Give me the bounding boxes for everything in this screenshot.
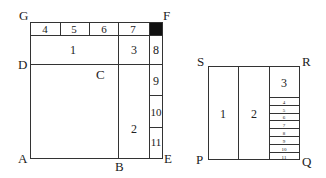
region-5: 5: [71, 23, 77, 35]
left-figure: 4 5 6 7 1 3 8 9 10 11 2 G F D C A B E: [18, 8, 172, 174]
right-figure: 1 2 3 4 5 6 7 8 9 10 11 S R P Q: [196, 54, 312, 169]
vertex-Q: Q: [302, 154, 312, 169]
vertex-E: E: [164, 151, 172, 166]
region-4: 4: [42, 23, 48, 35]
filled-cell: [150, 23, 162, 35]
region-3: 3: [131, 43, 137, 57]
region-10: 10: [151, 106, 163, 118]
region-8: 8: [283, 131, 286, 136]
region-11: 11: [151, 136, 162, 148]
region-1: 1: [70, 43, 76, 57]
region-6: 6: [283, 115, 286, 120]
vertex-A: A: [18, 151, 28, 166]
vertex-G: G: [19, 8, 28, 23]
region-6: 6: [101, 23, 107, 35]
vertex-B: B: [115, 159, 124, 174]
vertex-C: C: [96, 67, 105, 82]
region-9: 9: [283, 139, 286, 144]
region-7: 7: [130, 23, 136, 35]
region-2: 2: [251, 107, 257, 121]
vertex-R: R: [302, 54, 311, 69]
region-11: 11: [282, 155, 287, 160]
region-8: 8: [153, 43, 159, 57]
region-10: 10: [282, 147, 288, 152]
vertex-F: F: [163, 8, 170, 23]
region-4: 4: [283, 100, 286, 105]
region-2: 2: [131, 122, 137, 136]
vertex-S: S: [197, 54, 204, 69]
vertex-P: P: [196, 152, 203, 167]
dissection-diagram: 4 5 6 7 1 3 8 9 10 11 2 G F D C A B E 1 …: [0, 0, 326, 178]
region-1: 1: [220, 107, 226, 121]
region-3: 3: [281, 76, 287, 90]
left-outer-square: [31, 23, 163, 159]
region-5: 5: [283, 108, 286, 113]
vertex-D: D: [18, 57, 27, 72]
region-9: 9: [153, 74, 159, 88]
region-7: 7: [283, 123, 286, 128]
